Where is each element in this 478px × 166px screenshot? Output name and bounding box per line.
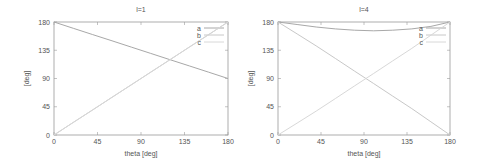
x-tick-label: 180: [222, 138, 234, 145]
x-tick-label: 180: [444, 138, 456, 145]
x-tick-label: 45: [317, 138, 325, 145]
series-line-b: [278, 22, 450, 135]
y-tick-label: 90: [42, 75, 50, 82]
chart-title: l=4: [359, 6, 369, 13]
x-axis-label: theta [deg]: [124, 150, 157, 158]
figure: 0459013518004590135180l=1theta [deg][deg…: [0, 0, 478, 166]
series-line-c: [278, 22, 450, 135]
legend-label-c: c: [420, 39, 424, 46]
x-axis-label: theta [deg]: [347, 150, 380, 158]
y-tick-label: 90: [266, 75, 274, 82]
legend-label-c: c: [198, 39, 202, 46]
x-tick-label: 0: [276, 138, 280, 145]
series-line-a: [54, 22, 228, 79]
y-tick-label: 0: [270, 132, 274, 139]
y-tick-label: 180: [38, 19, 50, 26]
legend-label-b: b: [419, 32, 423, 39]
y-tick-label: 180: [262, 19, 274, 26]
x-tick-label: 90: [137, 138, 145, 145]
x-tick-label: 0: [52, 138, 56, 145]
y-axis-label: [deg]: [247, 71, 255, 87]
x-tick-label: 135: [401, 138, 413, 145]
series-line-c: [54, 22, 228, 135]
y-tick-label: 135: [38, 47, 50, 54]
legend-label-a: a: [197, 25, 201, 32]
x-tick-label: 90: [360, 138, 368, 145]
charts-canvas: 0459013518004590135180l=1theta [deg][deg…: [0, 0, 478, 166]
y-tick-label: 135: [262, 47, 274, 54]
x-tick-label: 135: [179, 138, 191, 145]
y-tick-label: 45: [42, 103, 50, 110]
plot-frame: [278, 22, 450, 135]
x-tick-label: 45: [94, 138, 102, 145]
legend-label-a: a: [419, 25, 423, 32]
legend-label-b: b: [197, 32, 201, 39]
y-tick-label: 0: [46, 132, 50, 139]
y-axis-label: [deg]: [23, 71, 31, 87]
y-tick-label: 45: [266, 103, 274, 110]
chart-title: l=1: [136, 6, 146, 13]
